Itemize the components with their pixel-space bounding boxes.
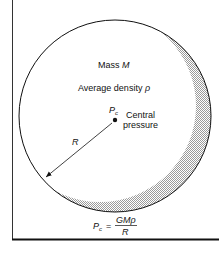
radius-label: R — [72, 137, 79, 147]
density-label: Average density ρ — [78, 83, 150, 93]
pressure-label-text: pressure — [123, 120, 158, 130]
svg-text:=: = — [106, 221, 111, 231]
center-point — [113, 118, 117, 122]
svg-text:Pc: Pc — [93, 221, 102, 232]
svg-text:GMρ: GMρ — [116, 215, 136, 225]
svg-text:R: R — [122, 227, 129, 237]
central-pressure-formula: Pc = GMρ R — [93, 215, 137, 237]
stellar-pressure-diagram: Mass M Average density ρ Pc Central pres… — [0, 0, 219, 258]
central-label: Central — [126, 110, 155, 120]
shaded-crescent — [4, 10, 211, 212]
mass-label: Mass M — [98, 60, 130, 70]
